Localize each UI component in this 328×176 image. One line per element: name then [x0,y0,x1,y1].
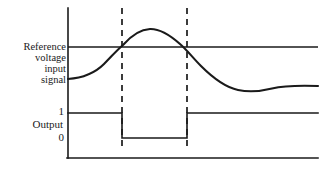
reference-signal-label-line-2: voltage [0,52,66,63]
reference-signal-label-line-1: Reference [0,41,66,52]
reference-signal-label: Reference voltage input signal [0,41,66,86]
output-label: Output [0,119,63,131]
reference-signal-label-line-3: input [0,63,66,74]
reference-signal-label-line-4: signal [0,74,66,85]
output-level-low-tick: 0 [50,131,64,143]
comparator-waveform-figure [0,0,328,176]
output-level-high-tick: 1 [50,105,64,117]
